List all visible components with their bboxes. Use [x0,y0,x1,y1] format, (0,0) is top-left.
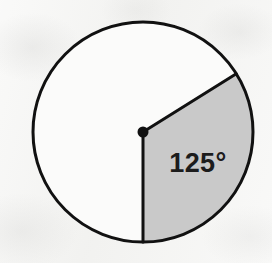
circle-sector-figure: 125° [0,0,272,263]
angle-label: 125° [169,148,226,178]
diagram-canvas: 125° [0,0,272,263]
center-dot [138,127,149,138]
